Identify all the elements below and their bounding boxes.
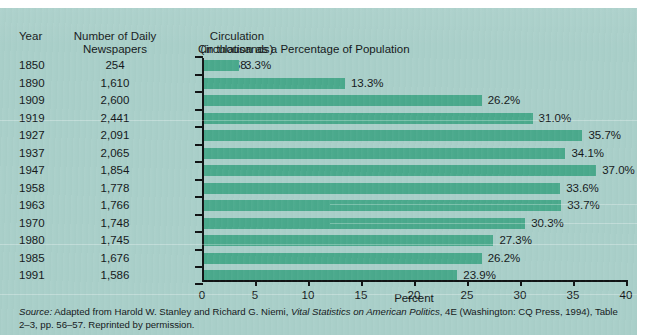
cell-year: 1985 (19, 252, 57, 264)
bar (204, 113, 533, 124)
source-note: Source: Adapted from Harold W. Stanley a… (19, 306, 619, 331)
x-axis-tick (308, 280, 310, 286)
column-header-newspapers: Number of Daily Newspapers (55, 30, 175, 56)
bar-value-label: 30.3% (531, 217, 564, 230)
y-axis-tick (195, 196, 203, 198)
bar-value-label: 27.3% (499, 234, 532, 247)
cell-year: 1890 (19, 77, 57, 89)
bar-value-label: 13.3% (351, 77, 384, 90)
column-header-circulation-line1: Circulation (182, 30, 292, 43)
x-axis-tick (626, 280, 628, 286)
cell-year: 1991 (19, 269, 57, 281)
x-axis-tick (361, 280, 363, 286)
figure-panel: Year Number of Daily Newspapers Circulat… (0, 8, 637, 335)
cell-year: 1850 (19, 59, 57, 71)
bar-value-label: 26.2% (488, 252, 521, 265)
cell-newspapers: 1,676 (55, 252, 175, 264)
bar-value-label: 33.6% (566, 182, 599, 195)
x-axis-tick (467, 280, 469, 286)
y-axis-tick (195, 109, 203, 111)
x-axis-tick (255, 280, 257, 286)
y-axis-tick (195, 249, 203, 251)
bar-value-label: 34.1% (571, 147, 604, 160)
bar (204, 235, 493, 246)
bar (204, 148, 565, 159)
cell-newspapers: 1,745 (55, 234, 175, 246)
bar (204, 130, 582, 141)
x-axis-tick (573, 280, 575, 286)
y-axis-tick (195, 161, 203, 163)
y-axis-tick (195, 266, 203, 268)
cell-year: 1963 (19, 199, 57, 211)
chart-title: Circulation as a Percentage of Populatio… (198, 43, 410, 55)
bar-chart-plot: 3.3%13.3%26.2%31.0%35.7%34.1%37.0%33.6%3… (202, 58, 626, 280)
cell-newspapers: 254 (55, 59, 175, 71)
cell-newspapers: 1,778 (55, 182, 175, 194)
cell-newspapers: 1,586 (55, 269, 175, 281)
cell-newspapers: 2,600 (55, 94, 175, 106)
cell-newspapers: 2,441 (55, 112, 175, 124)
y-axis-tick (195, 56, 203, 58)
y-axis-tick (195, 231, 203, 233)
cell-newspapers: 2,065 (55, 147, 175, 159)
bar-value-label: 33.7% (567, 199, 600, 212)
cell-year: 1919 (19, 112, 57, 124)
bar-value-label: 37.0% (602, 164, 635, 177)
cell-year: 1947 (19, 164, 57, 176)
bar-value-label: 35.7% (588, 129, 621, 142)
bar (204, 253, 482, 264)
y-axis-tick (195, 91, 203, 93)
column-header-newspapers-line2: Newspapers (55, 43, 175, 56)
cell-year: 1970 (19, 217, 57, 229)
bar-value-label: 3.3% (245, 59, 271, 72)
source-label: Source: (19, 306, 52, 317)
source-title-italic: Vital Statistics on American Politics (291, 306, 440, 317)
cell-newspapers: 2,091 (55, 129, 175, 141)
cell-newspapers: 1,610 (55, 77, 175, 89)
y-axis-tick (195, 214, 203, 216)
y-axis-tick (195, 74, 203, 76)
bar (204, 183, 560, 194)
bar (204, 200, 561, 211)
y-axis-tick (195, 283, 203, 285)
cell-year: 1937 (19, 147, 57, 159)
x-axis-tick (520, 280, 522, 286)
bar-value-label: 26.2% (488, 94, 521, 107)
y-axis-tick (195, 179, 203, 181)
cell-newspapers: 1,748 (55, 217, 175, 229)
bar (204, 165, 596, 176)
cell-newspapers: 1,766 (55, 199, 175, 211)
source-text-part1: Adapted from Harold W. Stanley and Richa… (52, 306, 291, 317)
bar-value-label: 31.0% (539, 112, 572, 125)
x-axis-tick (414, 280, 416, 286)
cell-year: 1958 (19, 182, 57, 194)
cell-year: 1980 (19, 234, 57, 246)
cell-year: 1909 (19, 94, 57, 106)
x-axis-title: Percent (202, 292, 626, 304)
bar (204, 78, 345, 89)
column-header-newspapers-line1: Number of Daily (55, 30, 175, 43)
cell-year: 1927 (19, 129, 57, 141)
y-axis-tick (195, 144, 203, 146)
y-axis-tick (195, 126, 203, 128)
cell-newspapers: 1,854 (55, 164, 175, 176)
bar (204, 95, 482, 106)
column-header-year: Year (19, 30, 42, 43)
bar (204, 60, 239, 71)
bar (204, 218, 525, 229)
